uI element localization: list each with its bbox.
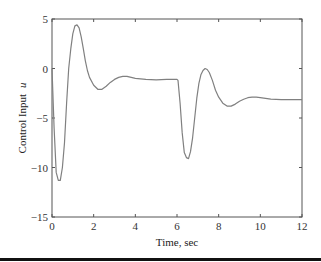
y-axis-label-var: u — [16, 82, 28, 88]
x-tick-label: 8 — [216, 220, 222, 232]
series-line-u — [52, 25, 302, 181]
y-tick-label: −15 — [31, 211, 49, 223]
x-tick-labels: 024681012 — [49, 220, 307, 232]
y-tick-label: 0 — [43, 63, 49, 75]
axis-ticks — [52, 19, 302, 217]
y-axis-label-text: Control Input — [16, 94, 28, 154]
y-axis-label: Control Input u — [16, 82, 28, 153]
y-tick-label: −5 — [36, 112, 48, 124]
plot-frame — [52, 19, 302, 217]
y-tick-label: 5 — [43, 13, 49, 25]
bottom-rule — [0, 258, 321, 261]
plot-area-border — [52, 19, 302, 217]
x-tick-label: 0 — [49, 220, 55, 232]
line-chart: 50−5−10−15 024681012 Time, sec Control I… — [0, 0, 321, 262]
x-axis-label: Time, sec — [156, 236, 198, 248]
x-tick-label: 6 — [174, 220, 180, 232]
y-tick-labels: 50−5−10−15 — [31, 13, 49, 223]
y-tick-label: −10 — [31, 162, 49, 174]
x-tick-label: 12 — [297, 220, 308, 232]
x-tick-label: 10 — [255, 220, 267, 232]
x-tick-label: 4 — [133, 220, 139, 232]
x-tick-label: 2 — [91, 220, 97, 232]
